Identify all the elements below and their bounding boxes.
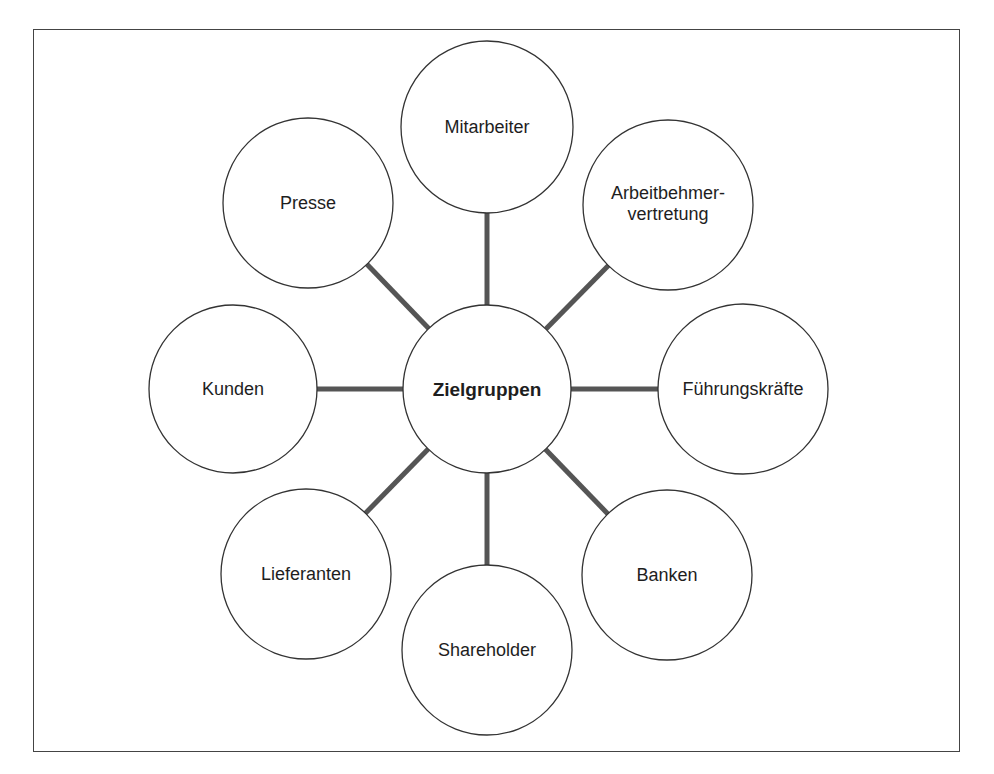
center-label: Zielgruppen: [433, 379, 542, 400]
connector-lieferanten: [365, 449, 428, 513]
node-label-banken: Banken: [636, 565, 697, 586]
node-label-mitarbeiter: Mitarbeiter: [444, 117, 529, 138]
node-label-fuehrungskraefte: Führungskräfte: [682, 379, 803, 400]
node-label-presse: Presse: [280, 193, 336, 214]
connector-banken: [545, 449, 607, 514]
connector-presse: [367, 264, 429, 328]
node-label-arbeitnehmervertretung: Arbeitbehmer- vertretung: [611, 183, 725, 225]
node-label-lieferanten: Lieferanten: [261, 564, 351, 585]
node-label-shareholder: Shareholder: [438, 640, 536, 661]
node-label-kunden: Kunden: [202, 379, 264, 400]
connector-arbeitnehmervertretung: [546, 266, 608, 330]
